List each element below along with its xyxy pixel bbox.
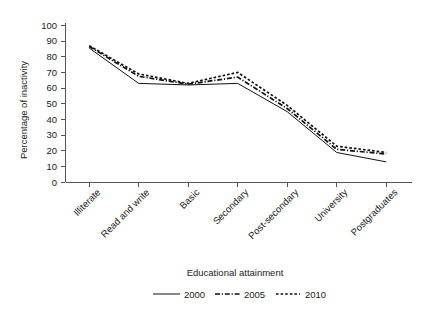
y-tick-label: 0 [52,177,57,188]
y-tick-label: 90 [46,35,57,46]
x-axis-title: Educational attainment [187,267,284,278]
y-tick-label: 50 [46,98,57,109]
y-tick-label: 40 [46,114,57,125]
x-tick-label: Illiterate [71,187,102,218]
y-tick-label: 80 [46,51,57,62]
series-line-2000 [89,48,386,162]
y-tick-label: 70 [46,67,57,78]
line-chart: Percentage of inactivity 100 90 80 70 60… [0,0,423,316]
y-tick-label: 60 [46,82,57,93]
chart-figure: Percentage of inactivity 100 90 80 70 60… [0,0,423,316]
x-tick-label: Read and write [98,187,151,240]
y-tick-label: 30 [46,129,57,140]
y-tick-label: 10 [46,161,57,172]
series-line-2005 [89,47,386,155]
y-axis-title: Percentage of inactivity [18,61,29,159]
x-tick-label: Post-secondary [246,186,301,241]
y-tick-marks [61,25,65,182]
x-tick-label: Secondary [211,186,251,226]
legend-label-2000: 2000 [184,289,205,300]
legend-label-2005: 2005 [244,289,265,300]
chart-legend: 2000 2005 2010 [153,289,326,300]
y-tick-label: 100 [41,20,57,31]
y-tick-label: 20 [46,145,57,156]
legend-label-2010: 2010 [305,289,326,300]
x-tick-label: Basic [177,186,201,210]
x-tick-marks [89,182,386,187]
series-line-2010 [89,46,386,153]
x-tick-labels: Illiterate Read and write Basic Secondar… [71,186,399,241]
x-tick-label: Postgraduates [348,186,399,237]
x-tick-label: University [312,186,349,223]
y-tick-labels: 100 90 80 70 60 50 40 30 20 10 0 [41,20,57,188]
